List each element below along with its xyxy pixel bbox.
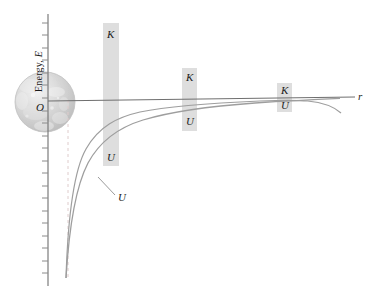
- y-axis-label: Energy, E: [33, 51, 44, 92]
- bar-1-kinetic-label: K: [107, 29, 114, 40]
- r-axis-label: r: [358, 91, 362, 102]
- bar-1-potential-label: U: [107, 152, 115, 163]
- y-axis-label-text: Energy,: [33, 57, 44, 92]
- origin-label: O: [36, 102, 44, 113]
- energy-bar-1: [103, 23, 119, 166]
- figure-canvas: [0, 0, 373, 289]
- bar-2-potential-label: U: [186, 116, 194, 127]
- energy-vs-radius-figure: Energy, E O r K U K U K U U: [0, 0, 373, 289]
- bar-2-kinetic-label: K: [186, 72, 193, 83]
- potential-curve-label: U: [118, 192, 126, 203]
- bar-3-potential-label: U: [281, 100, 289, 111]
- energy-bars: [103, 23, 292, 166]
- y-axis-label-symbol: E: [33, 51, 44, 57]
- bar-3-kinetic-label: K: [281, 85, 288, 96]
- curve-label-leader-line: [98, 177, 115, 195]
